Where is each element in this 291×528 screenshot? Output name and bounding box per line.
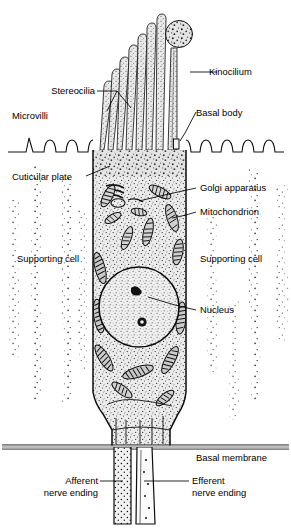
- hair-cell-body: [91, 150, 187, 447]
- basal-body-marker: [174, 139, 180, 149]
- kinocilium-bulb: [166, 21, 193, 48]
- label-stereocilia: Stereocilia: [51, 85, 96, 96]
- diagram-svg: Kinocilium Stereocilia Microvilli Basal …: [0, 0, 291, 528]
- label-efferent-line2: nerve ending: [192, 487, 246, 498]
- nucleus-organelle: [99, 267, 179, 347]
- hair-cell-diagram: Kinocilium Stereocilia Microvilli Basal …: [0, 0, 291, 528]
- cuticular-plate-region: [93, 150, 186, 176]
- label-afferent-line1: Afferent: [65, 475, 98, 486]
- efferent-nerve-ending-fiber: [136, 447, 155, 524]
- label-efferent-line1: Efferent: [192, 475, 225, 486]
- label-basal-body: Basal body: [196, 107, 243, 118]
- label-golgi-apparatus: Golgi apparatus: [200, 182, 267, 193]
- afferent-nerve-ending-fiber: [114, 447, 131, 524]
- label-supporting-cell-left: Supporting cell: [17, 253, 79, 264]
- label-nucleus: Nucleus: [200, 304, 234, 315]
- label-microvilli: Microvilli: [12, 110, 48, 121]
- label-mitochondrion: Mitochondrion: [200, 206, 259, 217]
- label-cuticular-plate: Cuticular plate: [12, 171, 72, 182]
- label-basal-membrane: Basal membrane: [196, 452, 267, 463]
- label-supporting-cell-right: Supporting cell: [200, 253, 262, 264]
- label-kinocilium: Kinocilium: [209, 66, 252, 77]
- label-afferent-line2: nerve ending: [44, 487, 98, 498]
